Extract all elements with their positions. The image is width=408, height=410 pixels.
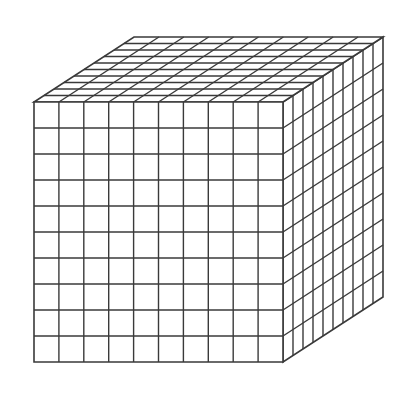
front-face [34,102,283,362]
cube-diagram [0,0,408,410]
